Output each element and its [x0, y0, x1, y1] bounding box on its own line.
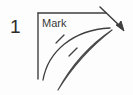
upper-arc-curve [43, 28, 110, 80]
mark-text-label: Mark [42, 17, 66, 30]
tick-mark-upper-arc-icon [56, 35, 64, 43]
tick-mark-lower-arc-icon [69, 48, 77, 56]
geometry-diagram [0, 0, 133, 95]
figure-number-label: 1 [10, 16, 21, 38]
shaded-lens-region [58, 30, 112, 90]
figure-container: 1 Mark [0, 0, 133, 95]
